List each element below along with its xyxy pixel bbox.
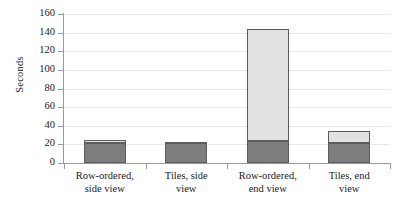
- gridline: [64, 107, 390, 108]
- bar-segment-lower: [328, 143, 370, 163]
- x-category-label: Tiles, sideview: [146, 170, 228, 195]
- gridline: [64, 51, 390, 52]
- y-tick-label: 80: [15, 82, 55, 93]
- x-tick-mark: [64, 164, 65, 169]
- x-tick-mark: [390, 164, 391, 169]
- x-category-label: Tiles, endview: [309, 170, 391, 195]
- chart-figure: Seconds 020406080100120140160 Row-ordere…: [0, 0, 404, 203]
- gridline: [64, 70, 390, 71]
- gridline: [64, 89, 390, 90]
- x-category-label-line: side view: [64, 183, 146, 196]
- gridline: [64, 126, 390, 127]
- x-tick-mark: [227, 164, 228, 169]
- y-tick-mark: [58, 144, 64, 145]
- x-category-label-line: view: [146, 183, 228, 196]
- x-category-label-line: Tiles, end: [309, 170, 391, 183]
- y-tick-mark: [58, 14, 64, 15]
- y-tick-mark: [58, 89, 64, 90]
- bar-segment-lower: [247, 141, 289, 163]
- y-tick-mark: [58, 33, 64, 34]
- y-tick-mark: [58, 126, 64, 127]
- y-tick-label: 40: [15, 119, 55, 130]
- bar-segment-upper: [328, 131, 370, 142]
- y-tick-mark: [58, 51, 64, 52]
- y-tick-label: 60: [15, 100, 55, 111]
- y-tick-label: 120: [15, 44, 55, 55]
- x-tick-mark: [146, 164, 147, 169]
- x-category-label-line: Row-ordered,: [64, 170, 146, 183]
- y-tick-label: 160: [15, 7, 55, 18]
- bar: [165, 142, 207, 163]
- bar: [84, 140, 126, 163]
- gridline: [64, 14, 390, 15]
- x-category-label-line: Row-ordered,: [227, 170, 309, 183]
- y-tick-mark: [58, 107, 64, 108]
- bar-segment-lower: [165, 143, 207, 163]
- bar: [247, 29, 289, 163]
- bar: [328, 131, 370, 163]
- bar-segment-lower: [84, 143, 126, 163]
- x-category-label: Row-ordered,end view: [227, 170, 309, 195]
- x-category-label-line: Tiles, side: [146, 170, 228, 183]
- gridline: [64, 33, 390, 34]
- y-tick-mark: [58, 70, 64, 71]
- bar-segment-upper: [247, 29, 289, 141]
- y-tick-label: 100: [15, 63, 55, 74]
- x-category-label: Row-ordered,side view: [64, 170, 146, 195]
- x-category-label-line: view: [309, 183, 391, 196]
- x-tick-mark: [309, 164, 310, 169]
- x-category-label-line: end view: [227, 183, 309, 196]
- y-tick-label: 0: [15, 156, 55, 167]
- y-tick-label: 20: [15, 137, 55, 148]
- y-tick-label: 140: [15, 26, 55, 37]
